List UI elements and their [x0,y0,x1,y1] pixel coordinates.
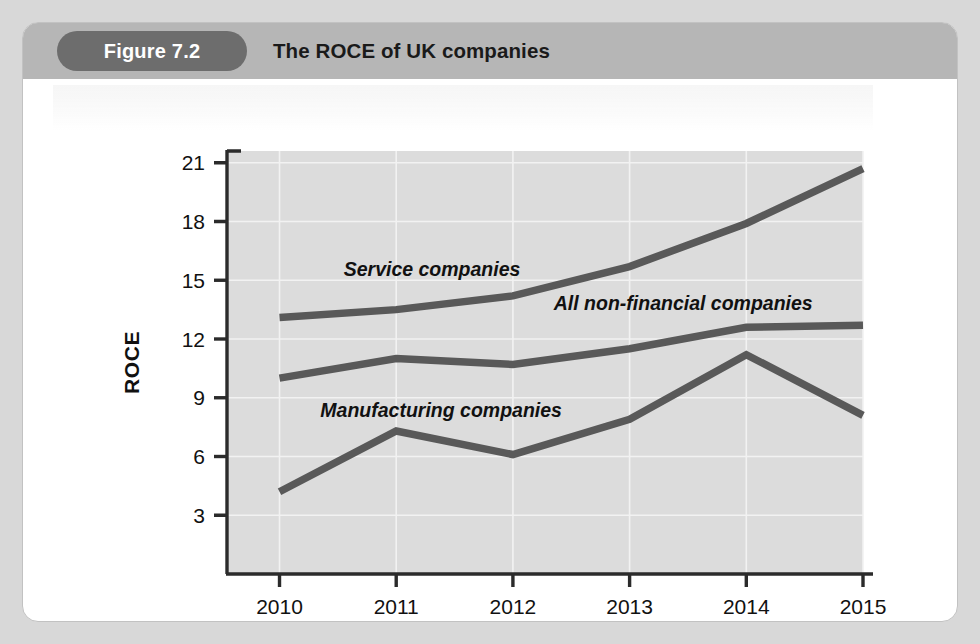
y-axis-tick-label: 21 [182,151,205,174]
y-axis-tick-label: 12 [182,328,205,351]
y-axis-tick-label: 6 [193,445,205,468]
y-axis-tick-labels: 36912151821 [182,151,205,527]
series-inline-label: All non-financial companies [553,292,813,314]
y-axis-tick-label: 9 [193,386,205,409]
series-inline-label: Manufacturing companies [320,399,562,421]
y-axis-tick-label: 15 [182,269,205,292]
x-axis-tick-label: 2014 [723,595,770,618]
x-axis-tick-label: 2011 [374,595,419,618]
roce-line-chart: 36912151821 201020112012201320142015 ROC… [23,79,958,622]
figure-title: The ROCE of UK companies [273,39,550,63]
x-axis-tick-label: 2012 [490,595,537,618]
x-axis-tick-label: 2013 [606,595,653,618]
x-axis-tick-label: 2010 [256,595,303,618]
figure-header-bar: Figure 7.2 The ROCE of UK companies [23,23,958,79]
x-axis-tick-labels: 201020112012201320142015 [256,595,886,618]
y-axis-tick-label: 18 [182,210,205,233]
figure-number-badge: Figure 7.2 [57,31,247,71]
y-axis-title: ROCE [120,331,143,394]
chart-plot-region: 36912151821 201020112012201320142015 ROC… [23,79,958,622]
figure-card: Figure 7.2 The ROCE of UK companies 3691… [22,22,958,622]
figure-number-label: Figure 7.2 [104,40,200,63]
series-inline-label: Service companies [344,258,521,280]
x-axis-tick-label: 2015 [840,595,887,618]
y-axis-tick-label: 3 [193,504,205,527]
y-axis-title-label: ROCE [120,331,143,394]
